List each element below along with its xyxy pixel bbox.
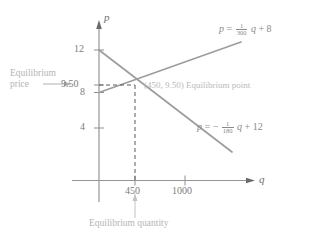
- q-axis-label: q: [259, 174, 265, 185]
- demand-eq-equals: =: [205, 121, 211, 132]
- ytick-label-12: 12: [74, 44, 84, 54]
- demand-equation-label: p = − 1 180 q + 12: [197, 121, 263, 135]
- demand-eq-variable: q: [237, 121, 242, 132]
- equilibrium-price-label-line1: Equilibrium: [10, 69, 56, 79]
- equilibrium-quantity-label: Equilibrium quantity: [89, 219, 168, 229]
- demand-eq-denominator: 180: [222, 127, 234, 135]
- xtick-label-1000: 1000: [172, 186, 192, 196]
- p-axis-label: p: [104, 12, 110, 23]
- demand-eq-constant: 12: [253, 121, 263, 132]
- demand-eq-fraction: 1 180: [222, 121, 234, 135]
- ytick-label-9-50: 9.50: [61, 79, 79, 89]
- supply-eq-equals: =: [227, 23, 233, 34]
- p-axis-arrowhead: [96, 20, 102, 29]
- supply-eq-variable: q: [251, 23, 256, 34]
- demand-eq-lhs: p: [197, 121, 202, 132]
- supply-eq-constant: 8: [267, 23, 272, 34]
- demand-eq-plus: +: [245, 121, 251, 132]
- xtick-label-450: 450: [125, 186, 140, 196]
- supply-eq-plus: +: [258, 23, 264, 34]
- ytick-label-8: 8: [80, 87, 85, 97]
- equilibrium-point-label: (450, 9.50) Equilibrium point: [144, 80, 250, 90]
- supply-eq-fraction: 1 300: [236, 23, 248, 37]
- ytick-label-4: 4: [80, 122, 85, 132]
- supply-equation-label: p = 1 300 q + 8: [219, 23, 272, 37]
- demand-curve: [99, 50, 232, 152]
- equilibrium-price-label-line2: price: [10, 80, 29, 90]
- supply-eq-lhs: p: [219, 23, 224, 34]
- supply-eq-denominator: 300: [236, 29, 248, 37]
- q-axis-arrowhead: [246, 178, 255, 184]
- equilibrium-supply-demand-figure: p q 12 9.50 8 4 450 1000 Equilibrium pri…: [0, 0, 313, 244]
- demand-eq-minus: −: [213, 121, 219, 132]
